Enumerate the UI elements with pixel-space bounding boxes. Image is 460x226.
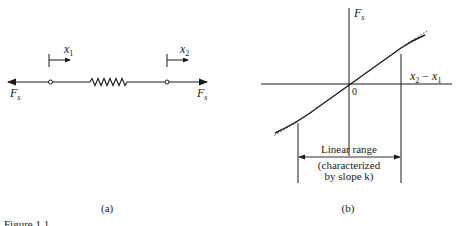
position-marker-x2: x2 [167, 42, 189, 67]
position-marker-x1: x1 [49, 42, 73, 67]
force-left-label: Fs [9, 86, 20, 102]
linear-extension-top [405, 31, 427, 45]
caption-a: (a) [101, 202, 114, 215]
y-axis-label: Fs [353, 6, 364, 22]
figure-label: Figure 1.1 [4, 218, 49, 226]
node-left [49, 80, 53, 84]
x2-label: x2 [179, 42, 189, 58]
linear-extension-bottom [273, 122, 297, 136]
caption-b: (b) [342, 202, 355, 215]
range-note-line2: by slope k) [325, 170, 374, 183]
spring [90, 79, 127, 86]
x-axis-label: x2 − x1 [409, 69, 441, 85]
figure-a: x1 x2 Fs Fs (a) [8, 42, 207, 215]
force-right-label: Fs [196, 86, 207, 102]
node-right [165, 80, 169, 84]
spring-diagram: x1 x2 Fs Fs (a) Fs x2 − x1 0 [0, 0, 460, 226]
figure-b: Fs x2 − x1 0 Linear range (characterized… [261, 6, 452, 215]
origin-label: 0 [352, 86, 357, 97]
x1-label: x1 [63, 42, 73, 58]
range-label: Linear range [321, 143, 377, 155]
